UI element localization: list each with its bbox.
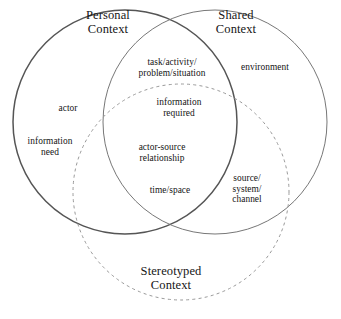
venn-item-task-activity: task/activity/ problem/situation [115, 57, 229, 78]
venn-item-time-space: time/space [128, 185, 212, 196]
venn-item-environment: environment [218, 62, 312, 73]
venn-diagram: Personal Context Shared Context Stereoty… [0, 0, 341, 319]
circle-personal-context [13, 10, 237, 234]
venn-item-information-required: information required [132, 97, 226, 118]
venn-item-actor-source-relationship: actor-source relationship [112, 142, 212, 163]
venn-item-information-need: information need [8, 136, 92, 157]
circle-label-shared-context: Shared Context [190, 8, 282, 36]
venn-item-source-system-channel: source/ system/ channel [212, 173, 282, 205]
circle-label-stereotyped-context: Stereotyped Context [116, 264, 226, 292]
venn-item-actor: actor [32, 103, 104, 114]
circle-label-personal-context: Personal Context [62, 8, 154, 36]
